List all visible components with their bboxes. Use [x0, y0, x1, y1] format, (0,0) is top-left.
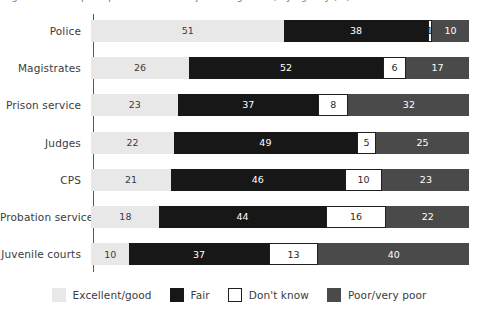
bar-segment: 26 [91, 57, 188, 79]
legend-item: Don't know [228, 288, 309, 302]
bar-value-label: 44 [237, 212, 249, 222]
bar-segment: 51 [91, 20, 284, 42]
bar-value-label: 52 [280, 63, 292, 73]
category-label: Probation service [0, 211, 88, 223]
bar-segment: 21 [91, 169, 170, 191]
bar-segment: 17 [406, 57, 470, 79]
table-row: Judges2249525 [0, 124, 478, 161]
bar-value-label: 46 [252, 175, 264, 185]
bar-segment: 37 [129, 243, 269, 265]
legend-swatch-icon [170, 288, 184, 302]
bar-segment: 23 [91, 94, 178, 116]
category-label: Magistrates [0, 62, 88, 74]
bar-value-label: 22 [422, 212, 434, 222]
bar-value-label: 26 [134, 63, 146, 73]
bar-track: 2652617 [91, 57, 469, 79]
bar-segment: 52 [189, 57, 384, 79]
bar-value-label: 6 [392, 63, 398, 73]
bar-value-label: 13 [288, 250, 300, 260]
bar-segment: 16 [326, 206, 386, 228]
table-row: Police5138110 [0, 12, 478, 49]
table-row: Probation service18441622 [0, 199, 478, 236]
bar-value-label: 16 [350, 212, 362, 222]
bar-segment: 49 [174, 132, 357, 154]
table-row: CPS21461023 [0, 161, 478, 198]
bar-value-label: 40 [388, 250, 400, 260]
stacked-bar-chart: Figure 1: Public perceptions of criminal… [0, 0, 478, 315]
bar-segment: 46 [171, 169, 345, 191]
bar-segment: 23 [382, 169, 469, 191]
plot-area: Police5138110Magistrates2652617Prison se… [0, 12, 478, 274]
bar-value-label: 37 [193, 250, 205, 260]
bar-segment: 10 [91, 243, 129, 265]
bar-segment: 40 [318, 243, 469, 265]
bar-segment: 10 [345, 169, 383, 191]
bar-segment: 10 [432, 20, 470, 42]
category-label: Juvenile courts [0, 248, 88, 260]
bar-value-label: 21 [125, 175, 137, 185]
bar-value-label: 49 [259, 138, 271, 148]
bar-value-label: 25 [417, 138, 429, 148]
bar-track: 21461023 [91, 169, 469, 191]
chart-legend: Excellent/goodFairDon't knowPoor/very po… [0, 282, 478, 308]
bar-value-label: 23 [129, 100, 141, 110]
table-row: Magistrates2652617 [0, 49, 478, 86]
legend-label: Excellent/good [73, 289, 152, 301]
bar-track: 10371340 [91, 243, 469, 265]
legend-item: Excellent/good [52, 288, 152, 302]
bar-value-label: 38 [350, 26, 362, 36]
bar-value-label: 10 [104, 250, 116, 260]
bar-segment: 13 [269, 243, 318, 265]
legend-swatch-icon [327, 288, 341, 302]
bar-segment: 44 [159, 206, 325, 228]
bar-track: 5138110 [91, 20, 469, 42]
bar-segment: 6 [383, 57, 405, 79]
bar-segment: 5 [357, 132, 376, 154]
bar-value-label: 37 [242, 100, 254, 110]
table-row: Prison service2337832 [0, 87, 478, 124]
bar-segment: 18 [91, 206, 159, 228]
legend-label: Don't know [249, 289, 309, 301]
legend-swatch-icon [52, 288, 66, 302]
legend-swatch-icon [228, 288, 242, 302]
bar-value-label: 18 [119, 212, 131, 222]
category-label: CPS [0, 174, 88, 186]
table-row: Juvenile courts10371340 [0, 236, 478, 273]
bar-value-label: 5 [363, 138, 369, 148]
legend-label: Fair [191, 289, 210, 301]
bar-value-label: 10 [444, 26, 456, 36]
category-label: Judges [0, 137, 88, 149]
bar-value-label: 51 [182, 26, 194, 36]
bar-value-label: 22 [127, 138, 139, 148]
chart-title-cropped: Figure 1: Public perceptions of criminal… [4, 0, 474, 3]
bar-segment: 38 [284, 20, 428, 42]
bar-value-label: 8 [330, 100, 336, 110]
bar-segment: 37 [178, 94, 318, 116]
legend-item: Fair [170, 288, 210, 302]
bar-track: 2337832 [91, 94, 469, 116]
bar-segment: 32 [348, 94, 469, 116]
category-label: Police [0, 25, 88, 37]
bar-value-label: 10 [357, 175, 369, 185]
bar-track: 18441622 [91, 206, 469, 228]
bar-segment: 22 [91, 132, 173, 154]
category-label: Prison service [0, 99, 88, 111]
bar-track: 2249525 [91, 132, 469, 154]
bar-value-label: 32 [403, 100, 415, 110]
bar-value-label: 23 [420, 175, 432, 185]
legend-label: Poor/very poor [348, 289, 426, 301]
bar-value-label: 17 [432, 63, 444, 73]
bar-segment: 22 [386, 206, 469, 228]
bar-segment: 25 [376, 132, 470, 154]
legend-item: Poor/very poor [327, 288, 426, 302]
bar-segment: 8 [318, 94, 348, 116]
